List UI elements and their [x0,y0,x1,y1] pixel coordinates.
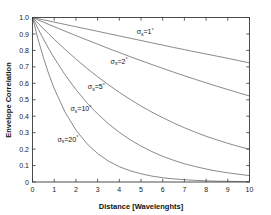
y-tick-label: 0.5 [19,96,29,103]
y-tick-label: 1.0 [19,14,29,21]
x-axis-title: Distance [Wavelenghts] [99,202,184,211]
x-tick-label: 1 [52,186,56,193]
x-tick-label: 6 [161,186,165,193]
x-tick-label: 9 [226,186,230,193]
x-tick-label: 4 [117,186,121,193]
x-tick-label: 8 [204,186,208,193]
x-tick-label: 3 [96,186,100,193]
y-tick-label: 0.7 [19,63,29,70]
chart-figure: 012345678910 00.10.20.30.40.50.60.70.80.… [0,0,271,215]
y-tick-label: 0.9 [19,31,29,38]
x-tick-label: 7 [182,186,186,193]
y-tick-label: 0.4 [19,113,29,120]
y-tick-label: 0.6 [19,80,29,87]
envelope-correlation-chart: 012345678910 00.10.20.30.40.50.60.70.80.… [0,0,271,215]
y-tick-label: 0.3 [19,129,29,136]
x-tick-label: 0 [31,186,35,193]
y-tick-label: 0.1 [19,162,29,169]
x-tick-label: 10 [246,186,254,193]
y-tick-label: 0.8 [19,47,29,54]
y-tick-label: 0 [25,179,29,186]
x-tick-label: 5 [139,186,143,193]
y-tick-label: 0.2 [19,146,29,153]
chart-background [0,0,271,215]
y-axis-title: Envelope Correlation [4,62,13,138]
x-tick-label: 2 [74,186,78,193]
